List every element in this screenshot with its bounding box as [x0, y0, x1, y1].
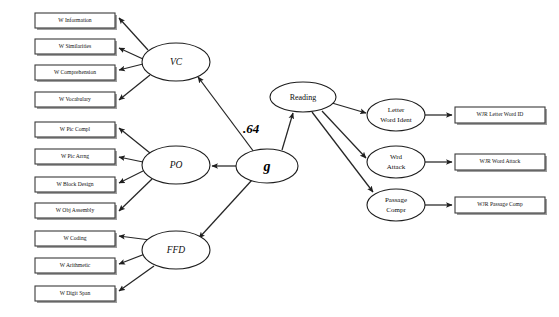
edge-vc-to-w-vocabulary	[119, 75, 150, 100]
node-label: W Coding	[63, 235, 86, 241]
edge-po-to-w-block-design	[119, 170, 145, 183]
node-label: W Arithmetic	[60, 262, 91, 268]
node-w-coding[interactable]: W Coding	[35, 231, 117, 248]
node-label: W Obj Assembly	[56, 207, 95, 213]
node-vc[interactable]: VC	[142, 43, 210, 81]
wisc-indicator-group: W Information W Similarities W Comprehen…	[35, 13, 117, 303]
edge-reading-to-letter-word-ident	[332, 103, 366, 113]
edge-vc-to-w-comprehension	[119, 64, 143, 70]
node-reading[interactable]: Reading	[270, 82, 336, 112]
node-label-line1: Wrd	[390, 153, 403, 161]
node-w-pic-compl[interactable]: W Pic Compl	[35, 122, 117, 139]
edge-po-to-w-pic-arrng	[119, 157, 143, 162]
edge-vc-to-w-information	[119, 18, 148, 50]
node-label-line1: Letter	[388, 106, 405, 114]
node-label: W Digit Span	[60, 290, 91, 296]
node-wjr-letter-word-id[interactable]: WJR Letter Word ID	[455, 107, 547, 125]
node-w-comprehension[interactable]: W Comprehension	[35, 65, 117, 82]
edge-po-to-w-obj-assembly	[119, 179, 152, 211]
node-label: Reading	[290, 93, 317, 102]
node-w-digit-span[interactable]: W Digit Span	[35, 286, 117, 303]
node-label: W Comprehension	[54, 69, 96, 75]
node-label: W Vocabulary	[59, 96, 91, 102]
node-w-pic-arrng[interactable]: W Pic Arrng	[35, 149, 117, 166]
node-letter-word-ident[interactable]: Letter Word Ident	[367, 99, 425, 131]
node-w-vocabulary[interactable]: W Vocabulary	[35, 92, 117, 109]
node-label: WJR Passage Comp	[477, 201, 523, 207]
node-g[interactable]: g	[236, 149, 298, 183]
node-label: PO	[169, 160, 183, 170]
edge-g-to-reading	[282, 113, 293, 150]
node-label: W Pic Arrng	[61, 153, 89, 159]
edge-g-to-ffd	[199, 180, 252, 238]
edge-reading-to-passage-compr	[312, 112, 373, 192]
edge-po-to-w-pic-compl	[119, 128, 150, 153]
wjr-indicator-group: WJR Letter Word ID WJR Word Attack WJR P…	[455, 107, 547, 215]
path-coefficient-label: .64	[243, 121, 260, 136]
node-label: FFD	[166, 245, 186, 255]
node-label: W Block Design	[56, 181, 93, 187]
node-label-line1: Passage	[385, 196, 407, 204]
reading-latent-group: Letter Word Ident Wrd Attack Passage Com…	[367, 99, 425, 221]
edge-ffd-to-w-coding	[119, 236, 150, 240]
node-label-line2: Compr	[386, 206, 406, 214]
node-label: W Information	[58, 17, 91, 23]
node-label: WJR Word Attack	[480, 158, 521, 164]
edge-ffd-to-w-arithmetic	[119, 254, 145, 264]
node-label-line2: Attack	[387, 163, 406, 171]
node-po[interactable]: PO	[142, 146, 210, 184]
node-label: g	[263, 159, 271, 174]
node-wjr-passage-comp[interactable]: WJR Passage Comp	[455, 197, 547, 215]
node-w-information[interactable]: W Information	[35, 13, 117, 30]
node-label: WJR Letter Word ID	[477, 111, 524, 117]
edge-g-to-vc	[198, 77, 254, 152]
node-label: VC	[170, 57, 183, 67]
node-wrd-attack[interactable]: Wrd Attack	[367, 146, 425, 178]
wisc-latent-group: VC PO FFD	[142, 43, 210, 269]
node-passage-compr[interactable]: Passage Compr	[367, 189, 425, 221]
node-label: W Similarities	[59, 43, 91, 49]
node-wjr-word-attack[interactable]: WJR Word Attack	[455, 154, 547, 172]
sem-path-diagram: W Information W Similarities W Comprehen…	[0, 0, 559, 317]
diagram-canvas: W Information W Similarities W Comprehen…	[0, 0, 559, 317]
node-label: W Pic Compl	[60, 126, 91, 132]
node-w-arithmetic[interactable]: W Arithmetic	[35, 258, 117, 275]
node-label-line2: Word Ident	[380, 116, 412, 124]
edge-vc-to-w-similarities	[119, 48, 143, 59]
node-w-obj-assembly[interactable]: W Obj Assembly	[35, 203, 117, 220]
node-w-block-design[interactable]: W Block Design	[35, 177, 117, 194]
node-ffd[interactable]: FFD	[142, 231, 210, 269]
node-w-similarities[interactable]: W Similarities	[35, 39, 117, 56]
edge-ffd-to-w-digit-span	[119, 266, 154, 291]
